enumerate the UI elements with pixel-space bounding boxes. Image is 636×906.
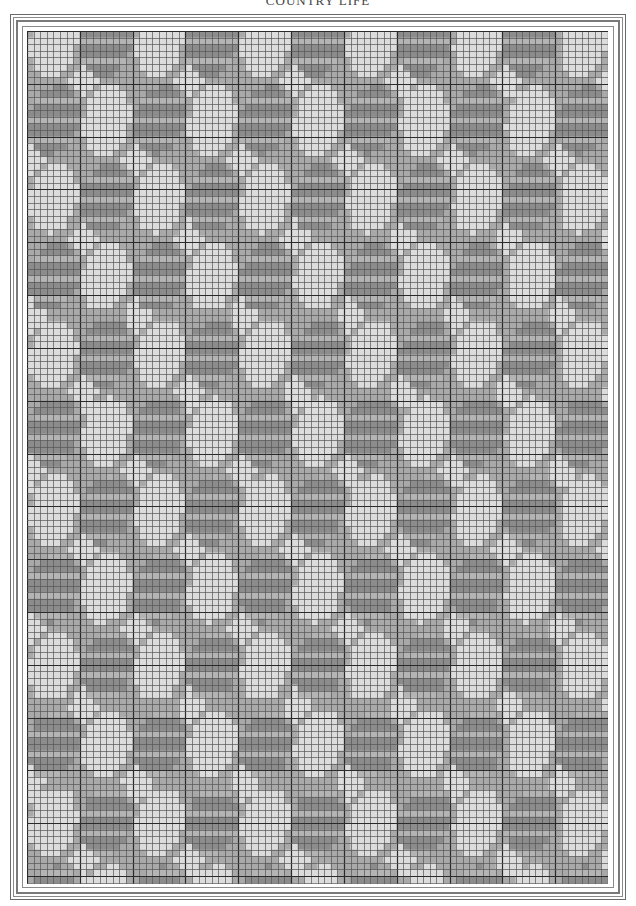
running-head: COUNTRY LIFE [0,0,636,9]
weave-draft-grid [27,31,608,884]
